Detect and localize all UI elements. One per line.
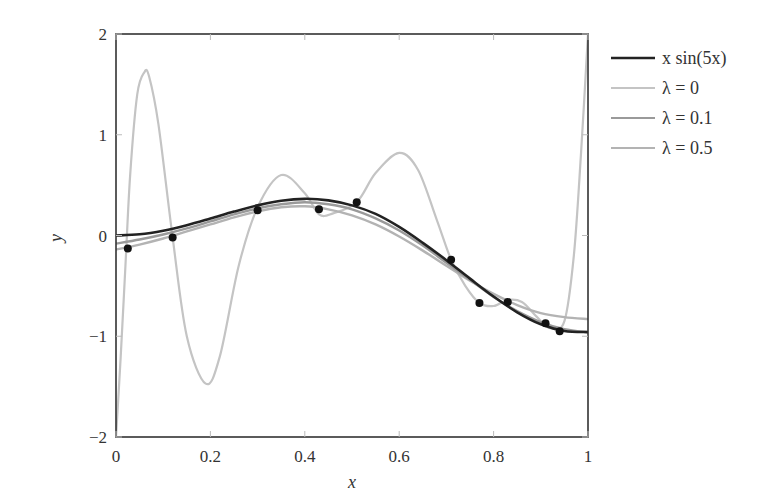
data-point [556,327,564,335]
data-point [475,299,483,307]
y-tick-label: −2 [89,428,107,447]
data-point [542,319,550,327]
x-tick-label: 0.8 [483,447,504,466]
x-tick-label: 0.6 [389,447,410,466]
legend-label: λ = 0.5 [662,138,712,158]
data-point [124,245,132,253]
plot-area [116,34,588,437]
data-point [353,198,361,206]
legend-label: x sin(5x) [662,48,727,69]
data-point [504,298,512,306]
x-tick-label: 1 [584,447,593,466]
data-point [315,205,323,213]
y-axis-label: y [46,234,66,244]
data-point [254,206,262,214]
series-line [116,206,588,319]
x-axis-label: x [347,472,356,492]
line-chart: 00.20.40.60.81 −2−1012 x y x sin(5x)λ = … [0,0,773,503]
legend: x sin(5x)λ = 0λ = 0.1λ = 0.5 [611,48,727,158]
plot-frame [116,34,588,437]
data-point [447,256,455,264]
x-axis: 00.20.40.60.81 [112,34,593,466]
y-tick-label: 2 [99,25,108,44]
series-line [116,34,588,437]
series-line [116,199,588,332]
x-tick-label: 0.4 [294,447,316,466]
x-tick-label: 0 [112,447,121,466]
y-tick-label: 1 [99,126,108,145]
y-axis: −2−1012 [89,25,588,447]
x-tick-label: 0.2 [200,447,221,466]
legend-label: λ = 0.1 [662,108,712,128]
data-point [169,234,177,242]
legend-label: λ = 0 [662,78,699,98]
y-tick-label: −1 [89,327,107,346]
y-tick-label: 0 [99,227,108,246]
